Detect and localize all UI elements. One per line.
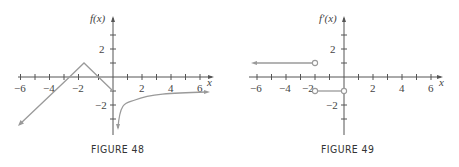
svg-text:2: 2 <box>139 82 145 94</box>
f-left-piece <box>20 63 113 124</box>
svg-text:2: 2 <box>330 43 336 55</box>
y-axis-arrow-icon <box>111 16 115 22</box>
open-circle-marker <box>312 60 317 65</box>
figure-48-plot: −6 −4 −2 2 4 6 2 −2 x f(x) <box>0 0 230 167</box>
svg-text:−2: −2 <box>72 82 84 94</box>
svg-text:−2: −2 <box>302 82 314 94</box>
figure-49: −6 −4 −2 2 4 6 2 −2 x f′(x) FIGURE 49 <box>229 0 459 167</box>
arrow-down-icon <box>116 124 120 130</box>
arrow-left-icon <box>251 61 257 65</box>
x-axis-label: x <box>438 76 444 88</box>
svg-text:4: 4 <box>399 82 405 94</box>
figure-49-caption: FIGURE 49 <box>321 143 374 156</box>
figure-48-caption: FIGURE 48 <box>91 143 144 156</box>
y-axis-label: f′(x) <box>319 12 337 25</box>
svg-text:4: 4 <box>168 82 174 94</box>
svg-text:−2: −2 <box>95 99 107 111</box>
f-right-piece <box>118 92 206 128</box>
figure-48: −6 −4 −2 2 4 6 2 −2 x f(x) FIGURE 48 <box>0 0 230 167</box>
svg-text:−6: −6 <box>250 82 262 94</box>
open-circle-marker <box>312 88 317 93</box>
open-circle-marker <box>341 88 346 93</box>
y-axis-arrow-icon <box>342 16 346 22</box>
arrow-right-icon <box>204 90 210 94</box>
svg-text:2: 2 <box>99 43 105 55</box>
svg-text:−6: −6 <box>14 82 26 94</box>
svg-text:6: 6 <box>428 82 434 94</box>
svg-text:−4: −4 <box>279 82 291 94</box>
svg-text:2: 2 <box>370 82 376 94</box>
figure-49-plot: −6 −4 −2 2 4 6 2 −2 x f′(x) <box>229 0 459 167</box>
x-tick-labels: −6 −4 −2 2 4 6 <box>14 82 203 94</box>
svg-text:−2: −2 <box>326 99 338 111</box>
x-axis-label: x <box>206 76 212 88</box>
y-axis-label: f(x) <box>90 12 106 25</box>
